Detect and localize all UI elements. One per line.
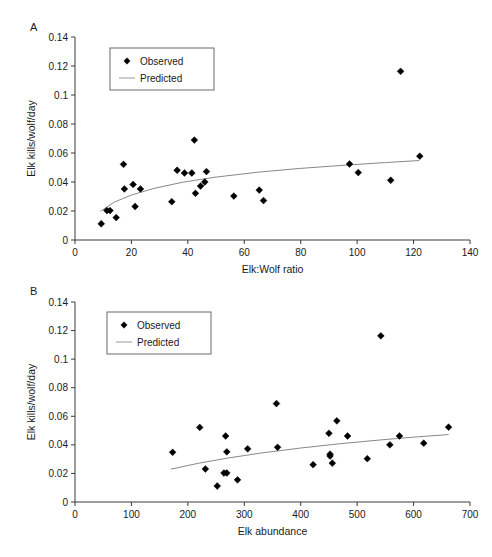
y-tick-label: 0.14 bbox=[49, 297, 69, 308]
data-point bbox=[344, 433, 351, 440]
data-point bbox=[174, 167, 181, 174]
legend-predicted-label: Predicted bbox=[137, 337, 179, 348]
data-point bbox=[191, 137, 198, 144]
panel-b: B 00.020.040.060.080.10.120.140100200300… bbox=[0, 280, 492, 557]
y-tick-label: 0.06 bbox=[49, 411, 69, 422]
data-point bbox=[121, 186, 128, 193]
data-point bbox=[222, 433, 229, 440]
data-point bbox=[333, 417, 340, 424]
data-point bbox=[214, 483, 221, 490]
data-point bbox=[188, 170, 195, 177]
data-point bbox=[234, 476, 241, 483]
panel-a: A 00.020.040.060.080.10.120.140204060801… bbox=[0, 0, 492, 280]
data-point bbox=[196, 424, 203, 431]
data-point bbox=[346, 161, 353, 168]
data-point bbox=[202, 466, 209, 473]
legend-box bbox=[110, 48, 214, 90]
x-tick-label: 500 bbox=[349, 509, 366, 520]
y-tick-label: 0.1 bbox=[54, 90, 68, 101]
y-tick-label: 0.12 bbox=[49, 325, 69, 336]
x-tick-label: 20 bbox=[126, 247, 138, 258]
scatter-figure: A 00.020.040.060.080.10.120.140204060801… bbox=[0, 0, 492, 557]
y-tick-label: 0 bbox=[62, 497, 68, 508]
data-point bbox=[273, 400, 280, 407]
data-point bbox=[326, 430, 333, 437]
data-point bbox=[98, 220, 105, 227]
x-tick-label: 80 bbox=[295, 247, 307, 258]
y-tick-label: 0.08 bbox=[49, 382, 69, 393]
data-point bbox=[364, 455, 371, 462]
panel-b-plot: 00.020.040.060.080.10.120.14010020030040… bbox=[0, 280, 492, 557]
y-tick-label: 0.1 bbox=[54, 354, 68, 365]
data-point bbox=[168, 198, 175, 205]
x-tick-label: 140 bbox=[462, 247, 479, 258]
data-point bbox=[386, 441, 393, 448]
data-point bbox=[310, 461, 317, 468]
data-point bbox=[256, 187, 263, 194]
x-tick-label: 100 bbox=[123, 509, 140, 520]
x-tick-label: 100 bbox=[349, 247, 366, 258]
legend-observed-label: Observed bbox=[137, 320, 180, 331]
y-tick-label: 0.06 bbox=[49, 148, 69, 159]
y-tick-label: 0.04 bbox=[49, 177, 69, 188]
data-point bbox=[416, 153, 423, 160]
legend-predicted-label: Predicted bbox=[140, 73, 182, 84]
predicted-curve bbox=[171, 435, 449, 470]
data-point bbox=[230, 193, 237, 200]
x-axis-title: Elk:Wolf ratio bbox=[242, 263, 304, 275]
y-tick-label: 0 bbox=[62, 235, 68, 246]
x-tick-label: 600 bbox=[405, 509, 422, 520]
data-point bbox=[130, 181, 137, 188]
data-point bbox=[397, 68, 404, 75]
y-tick-label: 0.04 bbox=[49, 439, 69, 450]
x-tick-label: 200 bbox=[180, 509, 197, 520]
data-point bbox=[132, 203, 139, 210]
data-point bbox=[387, 177, 394, 184]
data-point bbox=[420, 440, 427, 447]
data-point bbox=[355, 169, 362, 176]
x-tick-label: 0 bbox=[72, 247, 78, 258]
data-point bbox=[260, 197, 267, 204]
data-point bbox=[445, 424, 452, 431]
data-point bbox=[169, 449, 176, 456]
x-tick-label: 400 bbox=[292, 509, 309, 520]
x-axis-title: Elk abundance bbox=[238, 525, 308, 537]
legend-observed-label: Observed bbox=[140, 56, 183, 67]
data-point bbox=[329, 460, 336, 467]
x-tick-label: 0 bbox=[72, 509, 78, 520]
x-tick-label: 40 bbox=[182, 247, 194, 258]
y-tick-label: 0.14 bbox=[49, 32, 69, 43]
x-tick-label: 700 bbox=[462, 509, 479, 520]
data-point bbox=[181, 170, 188, 177]
data-point bbox=[113, 214, 120, 221]
data-point bbox=[192, 190, 199, 197]
x-tick-label: 120 bbox=[405, 247, 422, 258]
y-axis-title: Elk kills/wolf/day bbox=[25, 100, 37, 177]
data-point bbox=[223, 448, 230, 455]
x-tick-label: 300 bbox=[236, 509, 253, 520]
y-tick-label: 0.02 bbox=[49, 206, 69, 217]
x-tick-label: 60 bbox=[239, 247, 251, 258]
y-tick-label: 0.08 bbox=[49, 119, 69, 130]
data-point bbox=[244, 445, 251, 452]
y-axis-title: Elk kills/wolf/day bbox=[25, 363, 37, 440]
panel-a-plot: 00.020.040.060.080.10.120.14020406080100… bbox=[0, 0, 492, 280]
predicted-curve bbox=[100, 161, 419, 212]
data-point bbox=[203, 168, 210, 175]
data-point bbox=[377, 332, 384, 339]
y-tick-label: 0.02 bbox=[49, 468, 69, 479]
data-point bbox=[120, 161, 127, 168]
data-point bbox=[274, 444, 281, 451]
y-tick-label: 0.12 bbox=[49, 61, 69, 72]
legend-box bbox=[107, 312, 211, 354]
